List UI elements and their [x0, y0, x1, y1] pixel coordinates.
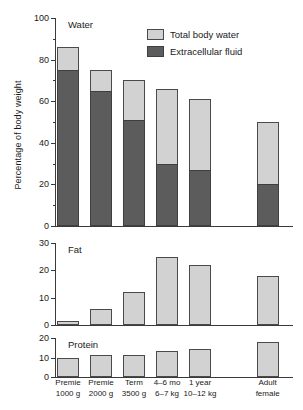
y-tick-water-80 — [51, 60, 55, 61]
bar-segment-extracellular-fluid-0 — [57, 70, 79, 226]
y-tick-label-protein-10: 10 — [39, 353, 49, 362]
x-axis-tick-labels: Premie1000 gPremie2000 gTerm3500 g4–6 mo… — [55, 378, 303, 408]
figure: Percentage of body weight 020406080100Wa… — [0, 0, 303, 410]
y-tick-water-100 — [51, 18, 55, 19]
y-tick-label-fat-30: 30 — [39, 239, 49, 248]
x-axis-line-fat — [55, 325, 293, 326]
panel-protein: 01020Protein — [55, 338, 293, 378]
x-tick-label-5-line2: female — [242, 389, 294, 400]
bar-water-4 — [189, 99, 211, 226]
bar-segment-extracellular-fluid-3 — [156, 164, 178, 226]
y-tick-label-fat-20: 20 — [39, 266, 49, 275]
bar-fat-2 — [123, 292, 145, 325]
panel-title-protein: Protein — [68, 339, 98, 350]
y-minor-tick-water-90 — [53, 39, 56, 40]
y-tick-label-water-100: 100 — [34, 14, 49, 23]
bar-protein-1 — [90, 355, 112, 377]
y-tick-water-40 — [51, 143, 55, 144]
y-tick-protein-10 — [51, 358, 55, 359]
x-tick-label-4-line1: 1 year — [174, 378, 226, 389]
x-tick-label-5: Adultfemale — [242, 378, 294, 399]
y-tick-water-0 — [51, 226, 55, 227]
legend-label-total-body-water: Total body water — [170, 28, 239, 41]
y-minor-tick-water-50 — [53, 122, 56, 123]
plot-area-protein: 01020Protein — [55, 338, 293, 378]
y-minor-tick-water-10 — [53, 205, 56, 206]
bar-segment-extracellular-fluid-2 — [123, 120, 145, 226]
y-tick-label-water-60: 60 — [39, 97, 49, 106]
y-tick-label-fat-10: 10 — [39, 293, 49, 302]
bar-segment-extracellular-fluid-4 — [189, 170, 211, 226]
plot-area-fat: 0102030Fat — [55, 243, 293, 326]
bar-water-1 — [90, 70, 112, 226]
y-axis-line-protein — [55, 338, 56, 378]
bar-fat-5 — [257, 276, 279, 325]
bar-fat-3 — [156, 257, 178, 325]
bar-protein-3 — [156, 351, 178, 377]
x-tick-label-5-line1: Adult — [242, 378, 294, 389]
bar-fat-1 — [90, 309, 112, 325]
bar-protein-4 — [189, 349, 211, 377]
bar-water-2 — [123, 80, 145, 226]
y-tick-label-protein-20: 20 — [39, 334, 49, 343]
legend-swatch-total-body-water — [147, 29, 164, 40]
panel-fat: 0102030Fat — [55, 243, 293, 326]
y-axis-line-water — [55, 18, 56, 227]
y-tick-fat-30 — [51, 243, 55, 244]
panel-title-water: Water — [68, 19, 93, 30]
y-tick-water-60 — [51, 101, 55, 102]
bar-water-5 — [257, 122, 279, 226]
bar-fat-4 — [189, 265, 211, 325]
x-tick-label-4: 1 year10–12 kg — [174, 378, 226, 399]
y-tick-label-water-80: 80 — [39, 55, 49, 64]
y-tick-protein-20 — [51, 338, 55, 339]
legend-label-extracellular-fluid: Extracellular fluid — [170, 45, 242, 58]
y-tick-label-water-0: 0 — [44, 222, 49, 231]
bar-water-3 — [156, 89, 178, 226]
y-tick-fat-0 — [51, 325, 55, 326]
bar-protein-0 — [57, 358, 79, 377]
y-axis-line-fat — [55, 243, 56, 326]
y-tick-fat-20 — [51, 270, 55, 271]
y-minor-tick-water-70 — [53, 80, 56, 81]
y-axis-title: Percentage of body weight — [13, 45, 23, 225]
y-tick-label-water-20: 20 — [39, 180, 49, 189]
bar-fat-0 — [57, 321, 79, 325]
x-axis-line-water — [55, 226, 293, 227]
bar-protein-5 — [257, 342, 279, 377]
bar-water-0 — [57, 47, 79, 226]
legend-swatch-extracellular-fluid — [147, 46, 164, 57]
y-tick-water-20 — [51, 184, 55, 185]
y-tick-label-fat-0: 0 — [44, 321, 49, 330]
panel-title-fat: Fat — [68, 244, 82, 255]
y-minor-tick-water-30 — [53, 164, 56, 165]
bar-segment-extracellular-fluid-5 — [257, 184, 279, 226]
bar-protein-2 — [123, 355, 145, 377]
y-tick-fat-10 — [51, 298, 55, 299]
y-tick-label-water-40: 40 — [39, 138, 49, 147]
x-tick-label-4-line2: 10–12 kg — [174, 389, 226, 400]
bar-segment-extracellular-fluid-1 — [90, 91, 112, 226]
